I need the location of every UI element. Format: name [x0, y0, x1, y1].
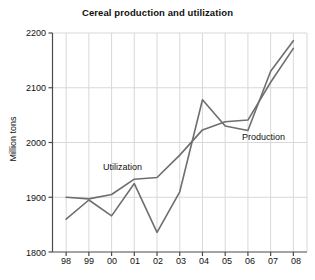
series-label-production: Production — [242, 132, 285, 142]
tick-marks — [49, 33, 294, 256]
gridlines — [53, 33, 308, 252]
chart-container: Cereal production and utilization Millio… — [0, 0, 315, 280]
series-label-utilization: Utilization — [103, 162, 142, 172]
